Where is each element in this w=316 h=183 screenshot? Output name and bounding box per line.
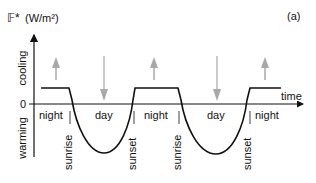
period-label-night: night <box>255 109 279 121</box>
transition-label-sunrise: sunrise <box>62 135 74 170</box>
panel-label: (a) <box>287 10 300 22</box>
period-label-night: night <box>144 109 168 121</box>
down-arrow-icon <box>213 56 221 101</box>
flux-arrows <box>52 56 269 101</box>
zero-label: 0 <box>20 98 26 110</box>
transition-label-sunrise: sunrise <box>171 135 183 170</box>
up-arrow-icon <box>261 57 269 80</box>
y-axis-unit: (W/m²) <box>25 12 59 24</box>
flux-diagram: 𝔽* (W/m²) (a) 0 time cooling warming <box>0 0 316 183</box>
period-label-night: night <box>39 109 63 121</box>
transition-label-sunset: sunset <box>126 138 138 170</box>
period-label-day: day <box>95 109 113 121</box>
down-arrow-icon <box>100 56 108 101</box>
x-axis-label: time <box>281 90 302 102</box>
warming-label: warming <box>16 117 28 160</box>
cooling-label: cooling <box>16 51 28 86</box>
transition-label-sunset: sunset <box>241 138 253 170</box>
period-label-day: day <box>207 109 225 121</box>
y-axis-symbol: 𝔽* <box>7 11 20 25</box>
up-arrow-icon <box>52 57 60 80</box>
up-arrow-icon <box>150 57 158 80</box>
